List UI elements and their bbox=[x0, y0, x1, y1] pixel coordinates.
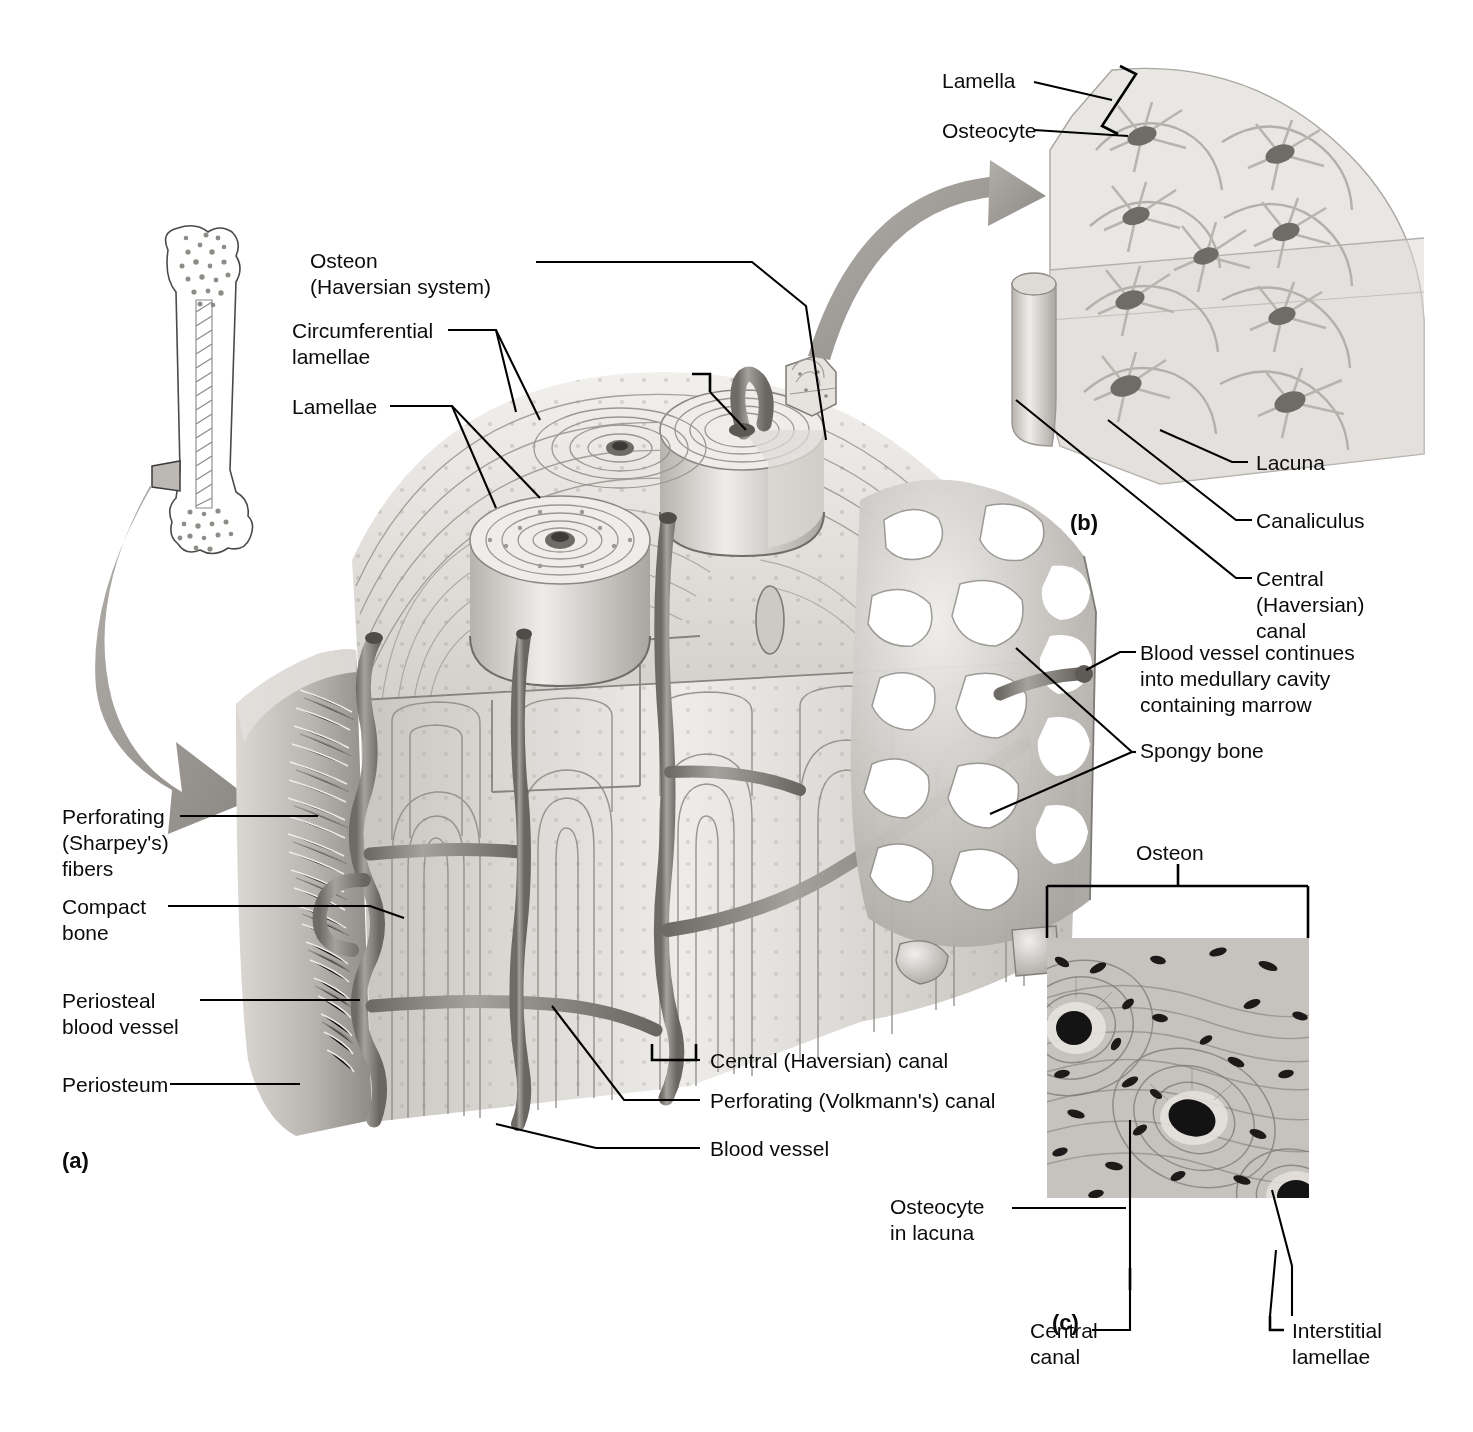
label-periosteal-blood-vessel: Periosteal blood vessel bbox=[62, 988, 179, 1040]
label-lamellae: Lamellae bbox=[292, 394, 377, 420]
label-osteocyte: Osteocyte bbox=[942, 118, 1037, 144]
label-osteocyte-in-lacuna: Osteocyte in lacuna bbox=[890, 1194, 985, 1246]
label-perforating-volkmanns-canal: Perforating (Volkmann's) canal bbox=[710, 1088, 995, 1114]
panel-a-artwork bbox=[236, 354, 1096, 1136]
arrow-panel-a-to-b bbox=[808, 160, 1046, 360]
panel-label-a: (a) bbox=[62, 1148, 89, 1174]
panel-c-micrograph bbox=[980, 938, 1366, 1260]
panel-b-central-canal bbox=[1012, 273, 1056, 446]
label-perforating-fibers: Perforating (Sharpey's) fibers bbox=[62, 804, 169, 882]
label-periosteum: Periosteum bbox=[62, 1072, 168, 1098]
label-canaliculus: Canaliculus bbox=[1256, 508, 1365, 534]
panel-b-source-wedge bbox=[786, 354, 836, 416]
panel-b-artwork bbox=[1012, 68, 1424, 484]
label-compact-bone: Compact bone bbox=[62, 894, 146, 946]
label-osteon-c: Osteon bbox=[1136, 840, 1204, 866]
label-osteon: Osteon (Haversian system) bbox=[310, 248, 491, 300]
label-blood-vessel-medullary: Blood vessel continues into medullary ca… bbox=[1140, 640, 1355, 718]
panel-label-c: (c) bbox=[1052, 1310, 1079, 1336]
panel-label-b: (b) bbox=[1070, 510, 1098, 536]
long-bone-inset bbox=[152, 226, 253, 554]
label-spongy-bone: Spongy bone bbox=[1140, 738, 1264, 764]
label-central-haversian-canal-a: Central (Haversian) canal bbox=[710, 1048, 948, 1074]
label-circumferential-lamellae: Circumferential lamellae bbox=[292, 318, 433, 370]
label-lamella: Lamella bbox=[942, 68, 1016, 94]
bone-histology-figure: Osteon (Haversian system) Circumferentia… bbox=[0, 0, 1473, 1432]
osteon-cylinder-left bbox=[470, 496, 650, 686]
label-interstitial-lamellae: Interstitial lamellae bbox=[1292, 1318, 1382, 1370]
label-central-haversian-canal-b: Central (Haversian) canal bbox=[1256, 566, 1365, 644]
spongy-bone bbox=[851, 480, 1096, 984]
label-lacuna: Lacuna bbox=[1256, 450, 1325, 476]
label-blood-vessel: Blood vessel bbox=[710, 1136, 829, 1162]
